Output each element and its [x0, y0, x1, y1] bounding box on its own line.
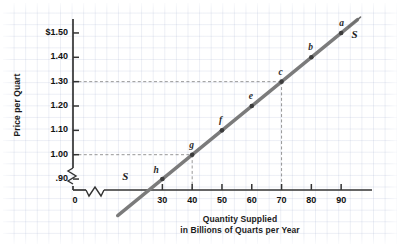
- y-tick-label-1: 1.40: [20, 51, 68, 61]
- data-point-f[interactable]: [220, 128, 225, 133]
- y-axis-title: Price per Quart: [12, 60, 22, 150]
- data-point-b[interactable]: [309, 55, 314, 60]
- data-point-a[interactable]: [339, 31, 344, 36]
- x-axis-break-symbol: [86, 187, 104, 196]
- x-axis-title: Quantity Supplied in Billions of Quarts …: [150, 214, 330, 236]
- point-label-b: b: [308, 42, 313, 52]
- point-label-g: g: [189, 140, 194, 150]
- data-point-e[interactable]: [249, 104, 254, 109]
- y-tick-label-5: 1.00: [20, 149, 68, 159]
- y-tick-label-0: $1.50: [20, 27, 68, 37]
- point-label-a: a: [339, 18, 344, 28]
- point-label-h: h: [153, 165, 158, 175]
- y-tick-label-2: 1.30: [20, 76, 68, 86]
- point-label-e: e: [249, 91, 253, 101]
- x-axis-title-line1: Quantity Supplied: [150, 214, 330, 225]
- x-tick-label-2: 40: [180, 195, 204, 205]
- supply-curve-line: [118, 20, 358, 216]
- x-tick-label-6: 80: [299, 195, 323, 205]
- point-label-f: f: [219, 115, 222, 125]
- y-tick-label-3: 1.20: [20, 100, 68, 110]
- x-tick-label-5: 70: [270, 195, 294, 205]
- y-axis-break-symbol: [68, 168, 76, 184]
- x-tick-label-1: 30: [150, 195, 174, 205]
- data-point-c[interactable]: [279, 79, 284, 84]
- x-tick-label-0: 0: [65, 195, 85, 205]
- supply-curve-label-start: S: [122, 170, 128, 182]
- y-tick-label-4: 1.10: [20, 124, 68, 134]
- x-tick-label-7: 90: [329, 195, 353, 205]
- y-tick-label-6: .90: [20, 173, 68, 183]
- point-label-c: c: [279, 67, 283, 77]
- data-point-h[interactable]: [160, 177, 165, 182]
- x-axis-title-line2: in Billions of Quarts per Year: [150, 225, 330, 236]
- supply-curve-label-end: S: [352, 28, 358, 40]
- supply-curve-end-tick: [349, 17, 361, 27]
- data-point-g[interactable]: [190, 152, 195, 157]
- x-tick-label-3: 50: [210, 195, 234, 205]
- x-tick-label-4: 60: [240, 195, 264, 205]
